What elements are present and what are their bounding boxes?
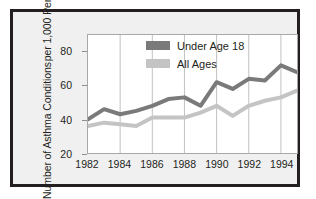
legend-item-0: Under Age 18 <box>146 38 244 53</box>
y-tick-label-20: 20 <box>32 148 72 160</box>
legend-swatch-icon-0 <box>146 41 170 50</box>
chart-legend: Under Age 18All Ages <box>146 38 244 71</box>
chart-inner: Number of Asthma Conditions per 1,000 Pe… <box>13 12 297 184</box>
series-line-under-age-18 <box>88 65 297 119</box>
chart-figure: Number of Asthma Conditions per 1,000 Pe… <box>10 9 300 187</box>
y-tick-label-40: 40 <box>32 114 72 126</box>
y-tick-label-60: 60 <box>32 79 72 91</box>
legend-label-1: All Ages <box>177 58 217 70</box>
legend-swatch-icon-1 <box>146 59 170 68</box>
y-tick-label-80: 80 <box>32 45 72 57</box>
legend-item-1: All Ages <box>146 56 244 71</box>
series-line-all-ages <box>88 91 297 126</box>
y-tick-mark-20 <box>82 154 87 155</box>
legend-label-0: Under Age 18 <box>177 40 244 52</box>
x-tick-label-1994: 1994 <box>262 158 302 170</box>
